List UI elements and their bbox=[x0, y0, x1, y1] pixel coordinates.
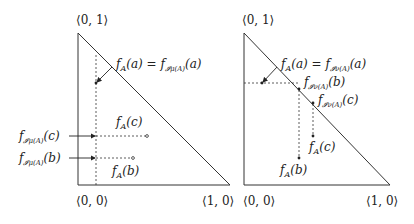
left-vertex-right-label: ⟨1, 0⟩ bbox=[202, 194, 234, 208]
right-point-a bbox=[261, 82, 264, 85]
right-fA-b-label: fA(b) bbox=[279, 163, 308, 179]
left-fI-c-label: f𝓘μ(A)(c) bbox=[18, 129, 60, 145]
right-fI-c-label: f𝓘ν(A)(c) bbox=[317, 93, 359, 109]
left-fI-b-label: f𝓘μ(A)(b) bbox=[18, 151, 61, 167]
left-panel: ⟨0, 1⟩ ⟨0, 0⟩ ⟨1, 0⟩ fA(a) = f𝓘μ(A)(a) f… bbox=[18, 13, 234, 208]
left-arrow-a bbox=[97, 67, 112, 82]
right-triangle bbox=[244, 33, 390, 185]
left-vertex-origin-label: ⟨0, 0⟩ bbox=[76, 194, 108, 208]
right-equation-label: fA(a) = f𝓘ν(A)(a) bbox=[280, 57, 367, 73]
left-fA-b-label: fA(b) bbox=[111, 164, 140, 180]
left-point-a bbox=[95, 82, 98, 85]
right-vertex-origin-label: ⟨0, 0⟩ bbox=[243, 194, 275, 208]
left-fA-c-label: fA(c) bbox=[115, 115, 143, 131]
left-point-fA-c bbox=[146, 135, 149, 138]
right-vertex-top-label: ⟨0, 1⟩ bbox=[242, 13, 274, 27]
right-point-fI-c bbox=[312, 102, 315, 105]
left-vertex-top-label: ⟨0, 1⟩ bbox=[76, 13, 108, 27]
right-arrow-a bbox=[263, 67, 277, 82]
left-equation-label: fA(a) = f𝓘μ(A)(a) bbox=[115, 57, 202, 73]
right-fA-c-label: fA(c) bbox=[308, 140, 336, 156]
right-vertex-right-label: ⟨1, 0⟩ bbox=[366, 194, 398, 208]
right-point-fA-b bbox=[298, 157, 301, 160]
right-point-fA-c bbox=[312, 135, 315, 138]
diagram-canvas: ⟨0, 1⟩ ⟨0, 0⟩ ⟨1, 0⟩ fA(a) = f𝓘μ(A)(a) f… bbox=[0, 0, 414, 224]
left-point-fA-b bbox=[132, 157, 135, 160]
right-fI-b-label: f𝓘ν(A)(b) bbox=[303, 75, 346, 91]
right-point-fI-b bbox=[298, 88, 301, 91]
left-triangle bbox=[78, 33, 230, 185]
right-panel: ⟨0, 1⟩ ⟨0, 0⟩ ⟨1, 0⟩ fA(a) = f𝓘ν(A)(a) f… bbox=[242, 13, 398, 208]
